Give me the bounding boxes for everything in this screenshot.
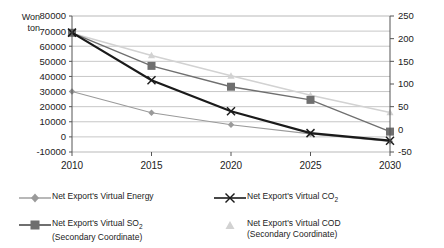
legend-label-cod-secondary: (Secondary Coordinate) [247, 229, 341, 240]
legend-column-left: Net Export's Virtual Energy Net Export's… [18, 190, 154, 244]
legend-item-cod[interactable]: Net Export's Virtual COD (Secondary Coor… [213, 217, 341, 239]
secondary-y-axis-tick-labels: 250200150100500-50 [398, 10, 414, 157]
legend-label-co2-subscript: 2 [334, 196, 338, 203]
legend-label-energy: Net Export's Virtual Energy [52, 190, 154, 202]
legend-label-so2-text: Net Export's Virtual SO [52, 218, 139, 228]
series-so2 [68, 29, 394, 136]
data-point-marker [228, 122, 234, 128]
secondary-y-axis-tick-label: 200 [398, 33, 414, 44]
legend-key-so2 [18, 218, 52, 232]
secondary-y-axis-tick-label: 50 [398, 101, 409, 112]
series-line [72, 33, 390, 132]
data-point-marker [227, 83, 235, 91]
y-axis-tick-label: 40000 [40, 71, 66, 82]
x-axis-tick-labels: 20102015202020252030 [61, 160, 402, 171]
x-axis-tick-label: 2015 [140, 160, 163, 171]
legend-label-energy-text: Net Export's Virtual Energy [52, 191, 154, 201]
secondary-y-axis-tick-label: 150 [398, 56, 414, 67]
legend-item-so2[interactable]: Net Export's Virtual SO2 (Secondary Coor… [18, 217, 154, 239]
secondary-y-axis-tick-label: 250 [398, 10, 414, 21]
legend-label-so2-subscript: 2 [139, 223, 143, 230]
chart-container: Won ton 80000700006000050000400003000020… [0, 0, 444, 248]
secondary-y-axis-tick-label: -50 [398, 146, 412, 157]
x-axis-tick-label: 2030 [379, 160, 402, 171]
x-axis-tick-marks [72, 152, 390, 156]
x-axis-tick-label: 2020 [220, 160, 243, 171]
legend-item-energy[interactable]: Net Export's Virtual Energy [18, 190, 154, 212]
y-axis-tick-label: 30000 [40, 86, 66, 97]
data-point-marker [148, 62, 156, 70]
legend-label-co2: Net Export's Virtual CO2 [247, 190, 338, 205]
y-axis-tick-label: 20000 [40, 101, 66, 112]
y-axis-tick-label: 70000 [40, 26, 66, 37]
legend-item-co2[interactable]: Net Export's Virtual CO2 [213, 190, 341, 212]
legend-label-co2-text: Net Export's Virtual CO [247, 191, 334, 201]
y-axis-tick-label: 50000 [40, 56, 66, 67]
secondary-y-axis-tick-label: 0 [398, 124, 403, 135]
y-axis-tick-label: 0 [61, 131, 66, 142]
legend-label-so2: Net Export's Virtual SO2 (Secondary Coor… [52, 217, 143, 243]
legend-label-cod-text: Net Export's Virtual COD [247, 218, 341, 229]
series-cod [68, 30, 393, 116]
legend-label-cod: Net Export's Virtual COD (Secondary Coor… [247, 217, 341, 239]
legend-label-so2-secondary: (Secondary Coordinate) [52, 232, 143, 243]
legend-key-cod [213, 218, 247, 232]
legend-key-energy [18, 191, 52, 205]
chart-legend: Net Export's Virtual Energy Net Export's… [0, 190, 444, 248]
x-axis-tick-label: 2025 [299, 160, 322, 171]
x-axis-tick-label: 2010 [61, 160, 84, 171]
legend-column-right: Net Export's Virtual CO2 Net Export's Vi… [213, 190, 341, 244]
plot-area: 8000070000600005000040000300002000010000… [0, 0, 444, 190]
data-point-marker [307, 96, 315, 104]
y-axis-tick-label: 10000 [40, 116, 66, 127]
secondary-y-axis-tick-label: 100 [398, 78, 414, 89]
y-axis-tick-label: 60000 [40, 41, 66, 52]
y-axis-tick-label: 80000 [40, 10, 66, 21]
data-point-marker [148, 110, 154, 116]
y-axis-tick-label: -10000 [36, 146, 66, 157]
legend-key-co2 [213, 191, 247, 205]
y-axis-tick-labels: 8000070000600005000040000300002000010000… [36, 10, 66, 157]
series-line [72, 92, 390, 142]
